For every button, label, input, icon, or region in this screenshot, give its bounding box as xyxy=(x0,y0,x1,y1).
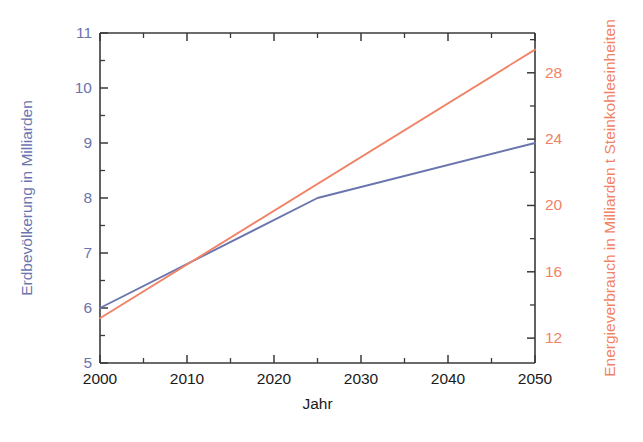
left-axis-title: Erdbevölkerung in Milliarden xyxy=(18,100,36,296)
series-line-1 xyxy=(100,50,535,319)
right-axis-title: Energieverbrauch in Milliarden t Steinko… xyxy=(601,19,619,377)
chart-figure: Erdbevölkerung in Milliarden Energieverb… xyxy=(0,0,643,442)
x-tick-label: 2000 xyxy=(83,370,117,388)
y-left-tick-label: 10 xyxy=(75,79,92,97)
y-left-tick-label: 8 xyxy=(83,189,92,207)
y-right-tick-label: 24 xyxy=(545,130,562,148)
x-tick-label: 2010 xyxy=(170,370,204,388)
y-right-tick-label: 12 xyxy=(545,329,562,347)
x-axis-title: Jahr xyxy=(302,395,332,413)
y-left-tick-label: 6 xyxy=(83,299,92,317)
y-right-tick-label: 28 xyxy=(545,64,562,82)
y-left-tick-label: 9 xyxy=(83,134,92,152)
x-tick-label: 2040 xyxy=(431,370,465,388)
y-right-tick-label: 20 xyxy=(545,196,562,214)
y-left-tick-label: 11 xyxy=(76,24,92,42)
x-tick-label: 2020 xyxy=(257,370,291,388)
x-tick-label: 2050 xyxy=(518,370,552,388)
y-right-tick-label: 16 xyxy=(545,263,562,281)
x-tick-label: 2030 xyxy=(344,370,378,388)
y-left-tick-label: 7 xyxy=(83,244,92,262)
series-line-0 xyxy=(100,143,535,308)
